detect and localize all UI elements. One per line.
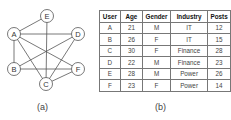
user-attribute-table: User Age Gender Industry Posts A21MIT12B… [99,10,231,92]
table-cell: IT [170,34,207,46]
header-age: Age [120,11,142,23]
table-header-row: User Age Gender Industry Posts [100,11,231,23]
header-industry: Industry [170,11,207,23]
table-cell: 28 [208,45,231,57]
table-cell: 28 [120,68,142,80]
table-cell: M [143,68,171,80]
table-cell: M [143,22,171,34]
table-cell: IT [170,22,207,34]
table-row: F23FPower14 [100,80,231,92]
table-cell: F [143,34,171,46]
node-label: A [11,30,16,39]
table-cell: 23 [120,80,142,92]
table-row: A21MIT12 [100,22,231,34]
table-cell: Finance [170,45,207,57]
table-cell: 21 [120,22,142,34]
table-cell: D [100,57,121,69]
table-cell: 30 [120,45,142,57]
table-cell: 23 [208,57,231,69]
table-cell: 26 [120,34,142,46]
table-cell: F [100,80,121,92]
table-cell: C [100,45,121,57]
table-row: E28MPower26 [100,68,231,80]
table-cell: 12 [208,22,231,34]
edge-A-C [14,34,46,84]
edge-E-C [46,16,47,84]
table-cell: 22 [120,57,142,69]
table-cell: F [143,80,171,92]
table-cell: 14 [208,80,231,92]
table-row: D22MFinance23 [100,57,231,69]
header-user: User [100,11,121,23]
table-cell: 26 [208,68,231,80]
graph-caption: (a) [37,102,48,112]
table-cell: E [100,68,121,80]
table-cell: Finance [170,57,207,69]
table-row: C30FFinance28 [100,45,231,57]
table-cell: Power [170,68,207,80]
node-label: E [44,12,49,21]
node-label: D [75,30,81,39]
table-cell: B [100,34,121,46]
table-cell: A [100,22,121,34]
table-cell: Power [170,80,207,92]
table-cell: M [143,57,171,69]
table-cell: 15 [208,34,231,46]
node-label: C [43,80,49,89]
table-cell: F [143,45,171,57]
header-gender: Gender [143,11,171,23]
node-label: F [76,65,81,74]
header-posts: Posts [208,11,231,23]
social-graph: EADBFC (a) [0,0,95,120]
table-caption: (b) [155,102,166,112]
table-row: B26FIT15 [100,34,231,46]
node-label: B [11,65,16,74]
